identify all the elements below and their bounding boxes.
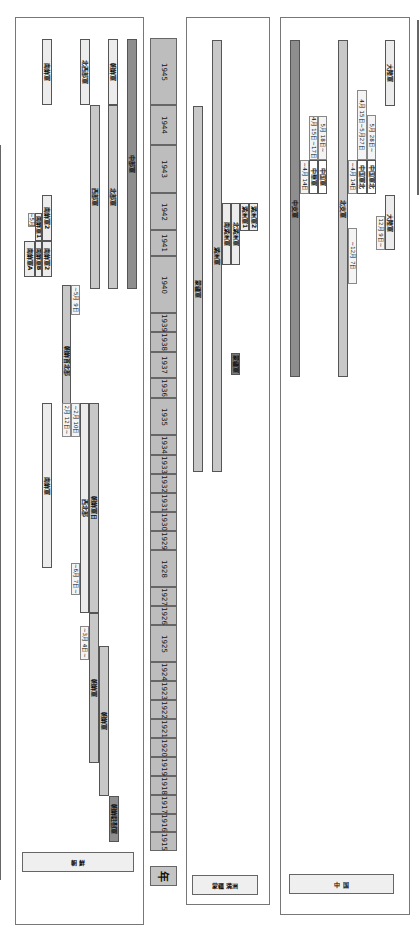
year-1931: 1931 bbox=[150, 493, 177, 512]
year-1932: 1932 bbox=[150, 474, 177, 493]
year-1944: 1944 bbox=[150, 105, 177, 145]
year-1937: 1937 bbox=[150, 352, 177, 378]
year-1929: 1929 bbox=[150, 531, 177, 550]
note-may28: 5月 28日~ bbox=[367, 115, 376, 160]
year-1939: 1939 bbox=[150, 313, 177, 332]
unit-chushi[interactable]: 中支軍 bbox=[290, 40, 300, 377]
year-1935: 1935 bbox=[150, 398, 177, 435]
note-may: ~5月 bbox=[28, 213, 35, 227]
note-apr15a: 4月 15日~17日 bbox=[309, 116, 318, 160]
note-mar4: ~3月 4日~ bbox=[80, 626, 89, 660]
unit-chosen-top[interactable]: 朝鮮軍 bbox=[108, 39, 118, 105]
note-feb12: 2月 12日~ bbox=[62, 403, 71, 437]
unit-chugoku[interactable]: 中国軍 bbox=[318, 160, 327, 194]
note-may9: ~5月 9日 bbox=[71, 285, 80, 315]
unit-seihoku[interactable]: 西北部 bbox=[80, 403, 89, 613]
region-label-manchuria: 蒙疆 満洲 bbox=[192, 875, 258, 895]
year-1923: 1923 bbox=[150, 681, 177, 700]
page-edge-left bbox=[0, 145, 1, 880]
axis-label-year: 年 bbox=[150, 866, 177, 886]
year-1930: 1930 bbox=[150, 512, 177, 531]
year-1941: 1941 bbox=[150, 230, 177, 256]
panel-china: 中支軍 北支軍 ~4月 14日 中華軍 中国軍 4月 15日~17日 5月 18… bbox=[280, 17, 410, 915]
year-1918: 1918 bbox=[150, 776, 177, 795]
year-1927: 1927 bbox=[150, 587, 177, 606]
note-apr14a: ~4月 14日 bbox=[300, 160, 309, 194]
unit-n2a[interactable]: 南鮮軍2 bbox=[42, 241, 52, 277]
note-apr14b: ~4月 14日 bbox=[348, 160, 357, 194]
note-may18: 5月 18日~ bbox=[318, 116, 327, 160]
note-jun7: ~6月 7日~ bbox=[71, 563, 80, 595]
unit-seibu[interactable]: 西部軍 bbox=[90, 105, 100, 289]
note-dec7: ~12月 7日 bbox=[348, 228, 357, 284]
year-1934: 1934 bbox=[150, 435, 177, 455]
unit-chosen-low[interactable]: 朝鮮軍 bbox=[99, 646, 109, 796]
unit-tairiku-low[interactable]: 大陸軍 bbox=[385, 195, 395, 250]
year-1925: 1925 bbox=[150, 625, 177, 662]
year-1919: 1919 bbox=[150, 757, 177, 776]
unit-n2b[interactable]: 南鮮軍2 bbox=[42, 195, 52, 241]
unit-chosen-mid[interactable]: 朝鮮軍 bbox=[89, 613, 99, 763]
year-1933: 1933 bbox=[150, 455, 177, 474]
unit-hokubu[interactable]: 北部軍 bbox=[108, 105, 118, 289]
year-1926: 1926 bbox=[150, 606, 177, 625]
unit-chusatsu[interactable]: 朝鮮駐剳軍 bbox=[109, 796, 119, 842]
year-axis: 1945 1944 1943 1942 1941 1940 1939 1938 … bbox=[150, 38, 177, 851]
unit-m2[interactable]: 満洲軍2 bbox=[249, 203, 258, 231]
unit-tairiku-top[interactable]: 大陸軍 bbox=[385, 40, 395, 106]
panel-manchuria: 蒙疆軍 満洲軍 南満洲軍 北満洲軍 満洲軍1 満洲軍2 蒙疆軍 蒙疆 満洲 bbox=[186, 17, 270, 905]
region-label-korea: 朝 鮮 bbox=[22, 852, 134, 872]
unit-hoku2[interactable]: 中国軍北 bbox=[367, 160, 376, 194]
unit-hokuman[interactable]: 北満洲軍 bbox=[231, 203, 240, 265]
year-1917: 1917 bbox=[150, 795, 177, 814]
year-1924: 1924 bbox=[150, 662, 177, 681]
year-1916: 1916 bbox=[150, 814, 177, 832]
year-1943: 1943 bbox=[150, 145, 177, 193]
unit-chubu[interactable]: 中部軍 bbox=[127, 39, 137, 289]
unit-hokushi[interactable]: 北支軍 bbox=[338, 40, 348, 377]
year-1920: 1920 bbox=[150, 738, 177, 757]
panel-korea: 朝 鮮 南鮮軍 北西部軍 朝鮮軍 中部軍 西部軍 北部軍 ~5月 南鮮軍1 南鮮… bbox=[15, 17, 144, 925]
year-1921: 1921 bbox=[150, 719, 177, 738]
note-apr15b: 4月 15日~5月27日 bbox=[357, 90, 367, 160]
unit-a[interactable]: 南鮮軍A bbox=[24, 241, 35, 277]
note-dec9: 12月 9日~ bbox=[376, 216, 385, 250]
unit-manshu[interactable]: 満洲軍 bbox=[212, 40, 222, 472]
unit-nanman[interactable]: 南満洲軍 bbox=[222, 203, 231, 265]
year-1942: 1942 bbox=[150, 193, 177, 230]
year-1936: 1936 bbox=[150, 378, 177, 398]
year-1915: 1915 bbox=[150, 832, 177, 851]
year-1945: 1945 bbox=[150, 38, 177, 105]
year-1928: 1928 bbox=[150, 550, 177, 587]
year-1938: 1938 bbox=[150, 332, 177, 352]
unit-moko2[interactable]: 蒙疆軍 bbox=[231, 353, 240, 375]
unit-chuka[interactable]: 中華軍 bbox=[309, 160, 318, 194]
year-1940: 1940 bbox=[150, 256, 177, 313]
unit-chosen-b[interactable]: 朝鮮軍日 bbox=[89, 403, 99, 613]
region-label-china: 中 国 bbox=[289, 874, 394, 894]
unit-nansen-top[interactable]: 南鮮軍 bbox=[42, 39, 52, 105]
unit-nansen-long[interactable]: 南鮮軍 bbox=[42, 403, 52, 568]
note-feb10: ~2月 10日 bbox=[71, 403, 80, 437]
unit-hoku1[interactable]: 中国軍北 bbox=[357, 160, 367, 194]
unit-moko[interactable]: 蒙疆軍 bbox=[193, 106, 203, 472]
unit-hokuseibu[interactable]: 北西部軍 bbox=[80, 39, 90, 105]
unit-b[interactable]: 南鮮軍B bbox=[35, 241, 42, 277]
unit-m1[interactable]: 満洲軍1 bbox=[240, 203, 249, 231]
year-1922: 1922 bbox=[150, 700, 177, 719]
unit-n1[interactable]: 南鮮軍1 bbox=[35, 213, 42, 241]
